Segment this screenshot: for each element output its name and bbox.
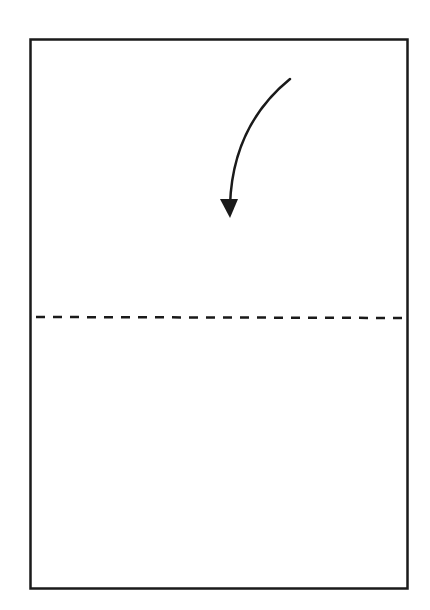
fold-diagram	[0, 0, 430, 610]
paper-sheet	[31, 40, 408, 589]
